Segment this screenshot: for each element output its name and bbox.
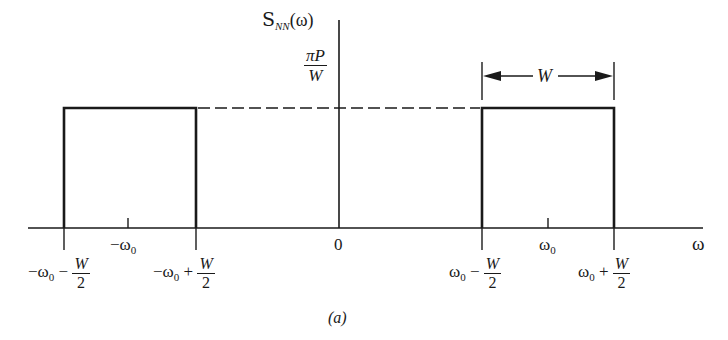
edge-label-right-end: ω0 + W2 (578, 256, 630, 291)
edge3-num: W (613, 256, 630, 274)
y-axis-subscript: NN (275, 20, 290, 32)
edge1-sub: 0 (174, 271, 180, 283)
neg-omega0-label: −ω0 (110, 236, 136, 256)
edge0-sub: 0 (49, 271, 55, 283)
edge2-sub: 0 (460, 271, 466, 283)
edge-label-left-end: −ω0 + W2 (153, 256, 215, 291)
left-band (64, 108, 196, 228)
edge-label-right-start: ω0 − W2 (449, 256, 501, 291)
edge3-sub: 0 (589, 271, 595, 283)
neg-omega0-sub: 0 (131, 244, 137, 256)
y-axis-symbol: S (262, 8, 275, 30)
bandwidth-label: W (537, 67, 552, 85)
edge1-pre: −ω (153, 262, 174, 281)
edge1-num: W (197, 256, 214, 274)
figure-caption: (a) (328, 310, 347, 326)
edge1-den: 2 (202, 274, 210, 291)
y-axis-label: SNN(ω) (262, 10, 314, 32)
arrowhead-right-icon (595, 71, 613, 81)
edge2-den: 2 (488, 274, 496, 291)
edge-label-left-start: −ω0 − W2 (28, 256, 90, 291)
level-numerator: πP (304, 47, 327, 66)
pos-omega0-label: ω0 (539, 236, 556, 256)
neg-omega0-text: −ω (110, 235, 131, 254)
level-label: πP W (304, 47, 327, 84)
edge3-pre: ω (578, 262, 589, 281)
arrowhead-left-icon (483, 71, 501, 81)
edge2-num: W (484, 256, 501, 274)
x-axis-label: ω (692, 234, 705, 253)
edge1-op: + (184, 262, 194, 281)
right-band (482, 108, 614, 228)
edge0-op: − (59, 262, 69, 281)
edge0-num: W (72, 256, 89, 274)
edge2-op: − (470, 262, 480, 281)
edge0-pre: −ω (28, 262, 49, 281)
level-denominator: W (308, 66, 322, 84)
edge2-pre: ω (449, 262, 460, 281)
origin-label: 0 (334, 236, 343, 253)
edge3-op: + (599, 262, 609, 281)
edge3-den: 2 (617, 274, 625, 291)
y-axis-argument: (ω) (290, 10, 314, 30)
pos-omega0-sub: 0 (550, 244, 556, 256)
pos-omega0-text: ω (539, 235, 550, 254)
edge0-den: 2 (77, 274, 85, 291)
